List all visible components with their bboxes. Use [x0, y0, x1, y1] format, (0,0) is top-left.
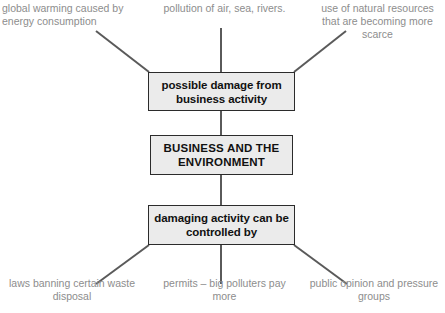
node-damaging-activity-controlled-by-label: damaging activity can be controlled by [149, 211, 294, 239]
node-business-and-the-environment-label: BUSINESS AND THE ENVIRONMENT [151, 141, 292, 169]
caption-natural-resources: use of natural resources that are becomi… [312, 2, 443, 41]
connector-global-warming-to-damage [96, 31, 149, 72]
caption-laws-banning-waste-disposal: laws banning certain waste disposal [2, 277, 142, 303]
business-environment-diagram: global warming caused by energy consumpt… [0, 0, 445, 313]
node-business-and-the-environment: BUSINESS AND THE ENVIRONMENT [150, 135, 293, 175]
node-possible-damage: possible damage from business activity [148, 72, 295, 111]
node-damaging-activity-controlled-by: damaging activity can be controlled by [148, 205, 295, 245]
caption-pollution: pollution of air, sea, rivers. [152, 2, 297, 15]
caption-global-warming: global warming caused by energy consumpt… [2, 2, 134, 28]
node-possible-damage-label: possible damage from business activity [149, 78, 294, 106]
caption-permits-big-polluters: permits – big polluters pay more [152, 277, 297, 303]
caption-public-opinion-pressure-groups: public opinion and pressure groups [306, 277, 442, 303]
